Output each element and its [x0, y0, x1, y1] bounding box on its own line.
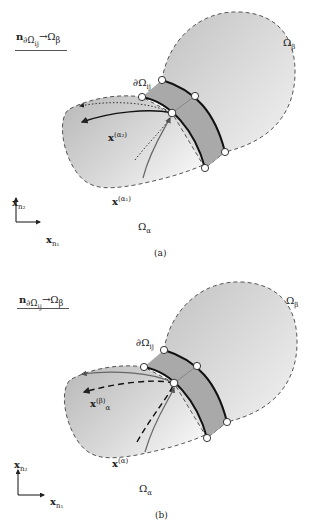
- t: ∂Ω: [133, 77, 146, 88]
- t: n₁: [52, 240, 59, 248]
- t: (α): [118, 457, 128, 465]
- omega-beta-label: Ωβ: [283, 38, 295, 51]
- omega-alpha-label: Ωα: [139, 484, 152, 497]
- diagram-canvas: [0, 0, 314, 530]
- caption-b: (b): [155, 510, 168, 520]
- traj2-label: x(β)α: [90, 398, 110, 412]
- header-underline: [17, 308, 69, 309]
- h-arrow: →Ω: [39, 31, 56, 42]
- boundary-label: ∂Ωij: [133, 78, 151, 91]
- axis-x-label: xn₁: [46, 235, 59, 248]
- t: (α₂): [114, 131, 127, 139]
- traj2-label: x(α₂): [108, 132, 127, 143]
- axis-y-label: xn₂: [14, 460, 27, 473]
- h-target: β: [59, 298, 64, 308]
- caption-a: (a): [154, 248, 166, 258]
- t: β: [294, 301, 298, 309]
- omega-alpha-label: Ωα: [138, 222, 151, 235]
- t: ij: [149, 343, 153, 351]
- t: α: [146, 227, 151, 235]
- panel-b-graphic: [18, 282, 297, 495]
- t: ∂Ω: [136, 337, 149, 348]
- axis-x-label: xn₁: [50, 497, 63, 510]
- h-target: β: [56, 35, 61, 45]
- t: β: [291, 43, 295, 51]
- t: α: [147, 489, 152, 497]
- omega-beta-label: Ωβ: [286, 296, 298, 309]
- t: (α₁): [118, 195, 131, 203]
- axis-y-label: xn₂: [12, 198, 25, 211]
- header-underline: [15, 50, 67, 51]
- t: ij: [146, 83, 150, 91]
- boundary-label: ∂Ωij: [136, 338, 154, 351]
- t: n₂: [20, 465, 27, 473]
- traj1-label: x(α₁): [112, 196, 131, 207]
- traj1-label: x(α): [112, 458, 128, 469]
- t: α: [105, 404, 110, 412]
- h-sub: ∂Ω: [23, 35, 34, 45]
- h-sub: ∂Ω: [26, 298, 37, 308]
- t: n₁: [56, 502, 63, 510]
- t: n₂: [18, 203, 25, 211]
- normal-vector-header: n∂Ωij→Ωβ: [16, 31, 60, 48]
- h-arrow: →Ω: [42, 294, 59, 305]
